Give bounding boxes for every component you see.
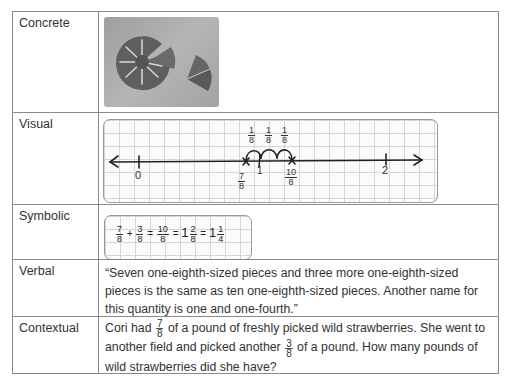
representations-table: Concrete xyxy=(12,11,499,374)
equation-grid: 78 + 38 = 108 = 128 = 114 xyxy=(104,215,252,260)
row-concrete: Concrete xyxy=(13,12,498,112)
tick-label-0: 0 xyxy=(135,169,141,181)
whole-part: 1 xyxy=(209,225,216,240)
row-label-visual: Visual xyxy=(19,117,53,131)
mark-label-seven-eighths: 7 8 xyxy=(238,172,245,191)
equals-sign: = xyxy=(147,228,153,239)
equals-sign: = xyxy=(200,228,206,239)
row-verbal: Verbal “Seven one-eighth-sized pieces an… xyxy=(13,259,498,316)
verbal-cell: “Seven one-eighth-sized pieces and three… xyxy=(99,260,498,316)
fraction-pieces-photo xyxy=(104,17,219,107)
term-three-eighths: 38 xyxy=(136,225,143,244)
fraction-circle-image xyxy=(104,17,219,107)
equation: 78 + 38 = 108 = 128 = 114 xyxy=(115,225,225,244)
word-problem: Cori had 78 of a pound of freshly picked… xyxy=(105,319,490,376)
term-seven-eighths: 78 xyxy=(116,225,123,244)
row-contextual: Contextual Cori had 78 of a pound of fre… xyxy=(13,316,498,374)
row-label-contextual: Contextual xyxy=(19,321,79,335)
jump-label-1: 1 8 xyxy=(248,126,255,145)
number-line-grid: 0 1 2 7 8 10 8 1 8 1 8 xyxy=(103,119,438,203)
jump-label-3: 1 8 xyxy=(281,126,288,145)
plus-sign: + xyxy=(127,228,133,239)
whole-part: 1 xyxy=(181,225,188,240)
term-ten-eighths: 108 xyxy=(157,225,169,244)
visual-cell: 0 1 2 7 8 10 8 1 8 1 8 xyxy=(99,113,498,204)
verbal-description: “Seven one-eighth-sized pieces and three… xyxy=(105,264,490,318)
row-label-symbolic: Symbolic xyxy=(19,209,70,223)
row-label-concrete: Concrete xyxy=(19,16,70,30)
row-label-verbal: Verbal xyxy=(19,264,54,278)
fraction-seven-eighths: 78 xyxy=(156,319,164,338)
term-one-and-one-fourth: 14 xyxy=(217,225,224,244)
equals-sign: = xyxy=(173,228,179,239)
symbolic-cell: 78 + 38 = 108 = 128 = 114 xyxy=(99,205,498,259)
contextual-cell: Cori had 78 of a pound of freshly picked… xyxy=(99,317,498,374)
term-one-and-two-eighths: 28 xyxy=(190,225,197,244)
row-visual: Visual xyxy=(13,112,498,204)
concrete-cell xyxy=(99,12,498,112)
row-symbolic: Symbolic 78 + 38 = 108 = 128 = 114 xyxy=(13,204,498,259)
jump-label-2: 1 8 xyxy=(265,126,272,145)
fraction-three-eighths: 38 xyxy=(285,339,293,358)
tick-label-2: 2 xyxy=(382,164,388,176)
tick-label-1: 1 xyxy=(257,165,263,176)
mark-label-ten-eighths: 10 8 xyxy=(285,168,297,187)
